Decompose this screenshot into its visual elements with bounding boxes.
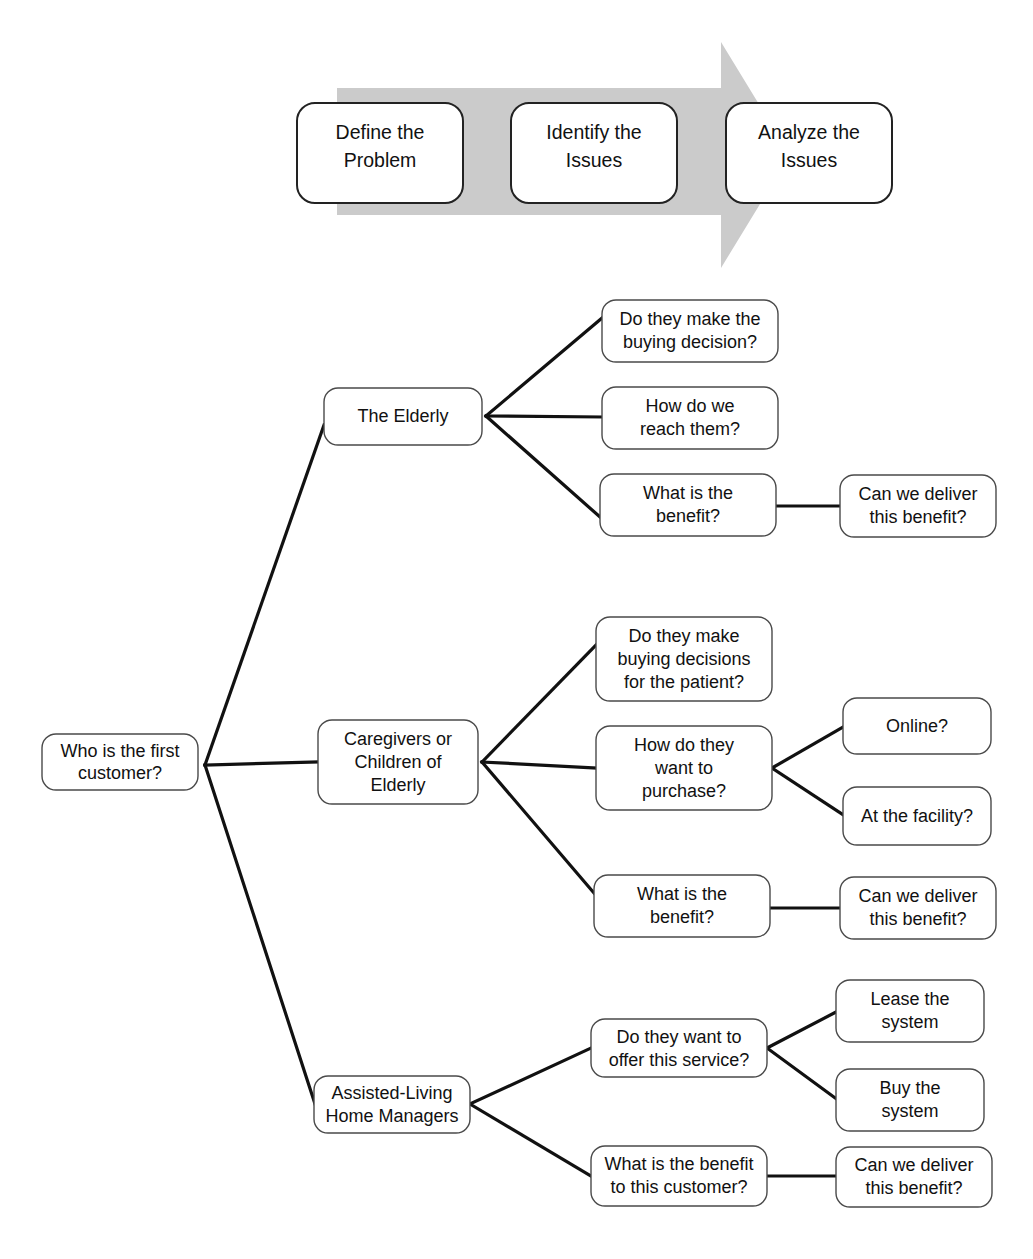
process-step-define-line2: Problem	[344, 149, 417, 171]
process-step-define-line1: Define the	[336, 121, 425, 143]
node-assisted-offer-service-line1: Do they want to	[616, 1027, 741, 1047]
node-caregivers-how-purchase-line2: want to	[654, 758, 713, 778]
node-branch-caregivers-line3: Elderly	[370, 775, 425, 795]
node-branch-assisted-living-line1: Assisted-Living	[331, 1083, 452, 1103]
node-assisted-buy-system-line1: Buy the	[879, 1078, 940, 1098]
edge-how-purchase-to-online	[772, 726, 845, 768]
tree-nodes: Who is the first customer? The Elderly D…	[42, 300, 996, 1207]
node-elderly-deliver-benefit-line2: this benefit?	[869, 507, 966, 527]
edge-caregivers-to-how-purchase	[482, 762, 596, 768]
node-caregivers-how-purchase-line1: How do they	[634, 735, 734, 755]
process-step-analyze[interactable]: Analyze the Issues	[726, 103, 892, 203]
node-caregivers-online-label: Online?	[886, 716, 948, 736]
node-assisted-lease-system-line2: system	[881, 1012, 938, 1032]
node-root-question[interactable]: Who is the first customer?	[42, 734, 198, 790]
process-step-define[interactable]: Define the Problem	[297, 103, 463, 203]
node-caregivers-deliver-benefit[interactable]: Can we deliver this benefit?	[840, 877, 996, 939]
node-assisted-lease-system-line1: Lease the	[870, 989, 949, 1009]
edge-caregivers-to-benefit	[482, 762, 594, 893]
node-assisted-benefit-customer[interactable]: What is the benefit to this customer?	[591, 1146, 767, 1206]
edge-assisted-to-offer-service	[470, 1048, 591, 1104]
node-caregivers-deliver-benefit-line2: this benefit?	[869, 909, 966, 929]
edge-offer-service-to-lease	[767, 1011, 838, 1048]
process-step-analyze-line2: Issues	[781, 149, 838, 171]
edge-offer-service-to-buy	[767, 1048, 838, 1100]
node-branch-assisted-living[interactable]: Assisted-Living Home Managers	[314, 1076, 470, 1133]
node-assisted-buy-system[interactable]: Buy the system	[836, 1069, 984, 1131]
edge-root-to-caregivers	[205, 762, 318, 765]
node-assisted-offer-service[interactable]: Do they want to offer this service?	[591, 1019, 767, 1077]
node-elderly-benefit-line2: benefit?	[656, 506, 720, 526]
node-elderly-benefit[interactable]: What is the benefit?	[600, 474, 776, 536]
node-assisted-benefit-customer-line1: What is the benefit	[604, 1154, 753, 1174]
edge-assisted-to-benefit-customer	[470, 1104, 591, 1176]
node-elderly-buying-decision[interactable]: Do they make the buying decision?	[602, 300, 778, 362]
node-elderly-deliver-benefit-line1: Can we deliver	[858, 484, 977, 504]
node-caregivers-how-purchase-line3: purchase?	[642, 781, 726, 801]
node-assisted-buy-system-line2: system	[881, 1101, 938, 1121]
edge-elderly-to-benefit	[486, 416, 600, 517]
node-caregivers-benefit-line2: benefit?	[650, 907, 714, 927]
node-branch-caregivers-line2: Children of	[354, 752, 442, 772]
node-caregivers-deliver-benefit-line1: Can we deliver	[858, 886, 977, 906]
edge-elderly-to-reach-them	[486, 416, 602, 417]
edge-elderly-to-buying-decision	[486, 318, 602, 416]
edge-root-to-assisted	[205, 765, 315, 1104]
node-root-question-line1: Who is the first	[60, 741, 179, 761]
edge-root-to-elderly	[205, 425, 324, 765]
node-caregivers-buying-decisions-line3: for the patient?	[624, 672, 744, 692]
node-assisted-deliver-benefit-line2: this benefit?	[865, 1178, 962, 1198]
node-elderly-reach-them[interactable]: How do we reach them?	[602, 387, 778, 449]
node-branch-caregivers-line1: Caregivers or	[344, 729, 452, 749]
node-branch-assisted-living-line2: Home Managers	[325, 1106, 458, 1126]
node-assisted-offer-service-line2: offer this service?	[609, 1050, 750, 1070]
node-elderly-deliver-benefit[interactable]: Can we deliver this benefit?	[840, 475, 996, 537]
node-caregivers-buying-decisions-line2: buying decisions	[617, 649, 750, 669]
node-caregivers-at-facility-label: At the facility?	[861, 806, 973, 826]
node-caregivers-how-purchase[interactable]: How do they want to purchase?	[596, 726, 772, 810]
node-assisted-lease-system[interactable]: Lease the system	[836, 980, 984, 1042]
node-assisted-deliver-benefit-line1: Can we deliver	[854, 1155, 973, 1175]
process-step-identify[interactable]: Identify the Issues	[511, 103, 677, 203]
node-root-question-line2: customer?	[78, 763, 162, 783]
node-branch-elderly-label: The Elderly	[357, 406, 448, 426]
node-caregivers-benefit[interactable]: What is the benefit?	[594, 875, 770, 937]
node-assisted-deliver-benefit[interactable]: Can we deliver this benefit?	[836, 1147, 992, 1207]
node-elderly-reach-them-line2: reach them?	[640, 419, 740, 439]
process-step-identify-line1: Identify the	[546, 121, 641, 143]
node-assisted-benefit-customer-line2: to this customer?	[610, 1177, 747, 1197]
node-caregivers-at-facility[interactable]: At the facility?	[843, 787, 991, 845]
node-branch-elderly[interactable]: The Elderly	[324, 388, 482, 445]
process-step-identify-line2: Issues	[566, 149, 623, 171]
node-branch-caregivers[interactable]: Caregivers or Children of Elderly	[318, 720, 478, 804]
node-caregivers-buying-decisions[interactable]: Do they make buying decisions for the pa…	[596, 617, 772, 701]
node-elderly-benefit-line1: What is the	[643, 483, 733, 503]
edge-how-purchase-to-at-facility	[772, 768, 845, 816]
issue-tree-diagram: Define the Problem Identify the Issues A…	[0, 0, 1033, 1259]
process-step-analyze-line1: Analyze the	[758, 121, 860, 143]
node-caregivers-benefit-line1: What is the	[637, 884, 727, 904]
node-elderly-buying-decision-line2: buying decision?	[623, 332, 757, 352]
node-caregivers-buying-decisions-line1: Do they make	[628, 626, 739, 646]
process-banner-group: Define the Problem Identify the Issues A…	[297, 42, 892, 268]
node-elderly-reach-them-line1: How do we	[645, 396, 734, 416]
node-elderly-buying-decision-line1: Do they make the	[619, 309, 760, 329]
edge-caregivers-to-buying-decisions	[482, 645, 596, 762]
node-caregivers-online[interactable]: Online?	[843, 698, 991, 754]
